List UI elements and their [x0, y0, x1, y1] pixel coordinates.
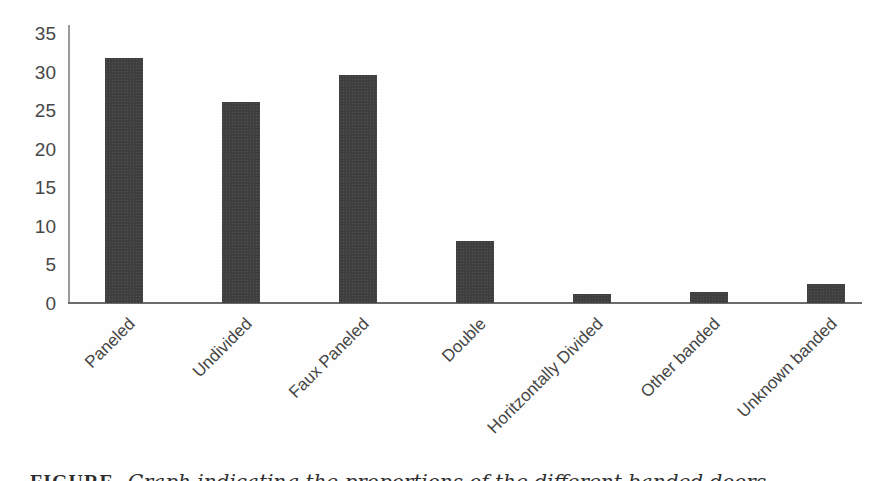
- y-tick-label-30: 30: [16, 63, 56, 82]
- y-tick-label-15: 15: [16, 178, 56, 197]
- bar-double: [456, 241, 494, 303]
- y-tick-label-10: 10: [16, 217, 56, 236]
- bar-undivided: [222, 102, 260, 303]
- y-axis-line: [68, 25, 70, 304]
- figure-caption-label: FIGURE: [30, 471, 114, 481]
- figure-caption-text: Graph indicating the proportions of the …: [128, 470, 766, 481]
- figure-caption: FIGUREGraph indicating the proportions o…: [30, 470, 860, 481]
- bar-paneled: [105, 58, 143, 303]
- y-tick-label-5: 5: [16, 255, 56, 274]
- y-tick-label-0: 0: [16, 294, 56, 313]
- bar-horitzontally-divided: [573, 294, 611, 303]
- bar-chart: 05101520253035 PaneledUndividedFaux Pane…: [0, 0, 886, 460]
- bar-faux-paneled: [339, 75, 377, 303]
- y-tick-label-35: 35: [16, 24, 56, 43]
- y-tick-label-25: 25: [16, 101, 56, 120]
- bar-other-banded: [690, 292, 728, 303]
- scanned-chart-page: 05101520253035 PaneledUndividedFaux Pane…: [0, 0, 886, 481]
- y-tick-label-20: 20: [16, 140, 56, 159]
- bar-unknown-banded: [807, 284, 845, 303]
